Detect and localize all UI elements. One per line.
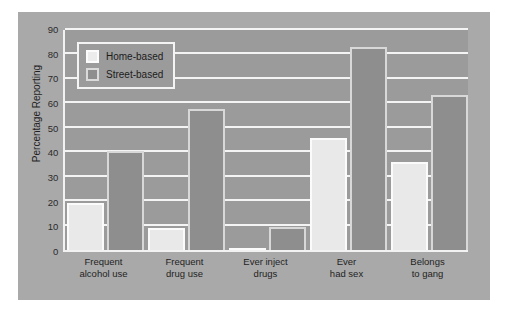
y-tick-label-70: 70 bbox=[28, 75, 58, 85]
y-tick-label-40: 40 bbox=[28, 149, 58, 159]
bar-home-based[interactable] bbox=[310, 138, 347, 250]
plot-area: Home-based Street-based bbox=[63, 30, 468, 252]
bar-group bbox=[389, 30, 470, 250]
bar-group bbox=[308, 30, 389, 250]
legend-swatch-street-based bbox=[86, 68, 99, 81]
x-tick-label: Ever injectdrugs bbox=[225, 256, 306, 280]
x-axis-tick-labels: Frequentalcohol useFrequentdrug useEver … bbox=[63, 256, 468, 296]
legend-label-street-based: Street-based bbox=[106, 69, 163, 80]
y-tick-label-50: 50 bbox=[28, 124, 58, 134]
x-tick-label: Frequentdrug use bbox=[144, 256, 225, 280]
y-tick-label-0: 0 bbox=[28, 247, 58, 257]
bar-street-based[interactable] bbox=[350, 47, 387, 251]
bar-street-based[interactable] bbox=[269, 227, 306, 250]
bar-street-based[interactable] bbox=[431, 95, 468, 250]
bar-home-based[interactable] bbox=[229, 248, 266, 250]
bar-street-based[interactable] bbox=[107, 151, 144, 250]
legend-item-street-based[interactable]: Street-based bbox=[86, 68, 163, 81]
legend-swatch-home-based bbox=[86, 50, 99, 63]
x-tick-label: Frequentalcohol use bbox=[63, 256, 144, 280]
y-tick-label-80: 80 bbox=[28, 50, 58, 60]
bar-street-based[interactable] bbox=[188, 109, 225, 250]
bar-home-based[interactable] bbox=[67, 203, 104, 250]
y-tick-label-90: 90 bbox=[28, 25, 58, 35]
legend: Home-based Street-based bbox=[77, 42, 175, 89]
y-tick-label-60: 60 bbox=[28, 99, 58, 109]
y-tick-label-10: 10 bbox=[28, 223, 58, 233]
bar-group bbox=[227, 30, 308, 250]
legend-label-home-based: Home-based bbox=[106, 51, 163, 62]
figure-panel: Percentage Reporting 0102030405060708090… bbox=[18, 12, 490, 300]
bar-home-based[interactable] bbox=[391, 162, 428, 250]
y-tick-label-20: 20 bbox=[28, 198, 58, 208]
y-axis-tick-labels: 0102030405060708090 bbox=[20, 30, 58, 252]
y-tick-label-30: 30 bbox=[28, 173, 58, 183]
bar-home-based[interactable] bbox=[148, 228, 185, 250]
x-tick-label: Everhad sex bbox=[306, 256, 387, 280]
x-tick-label: Belongsto gang bbox=[387, 256, 468, 280]
legend-item-home-based[interactable]: Home-based bbox=[86, 50, 163, 63]
